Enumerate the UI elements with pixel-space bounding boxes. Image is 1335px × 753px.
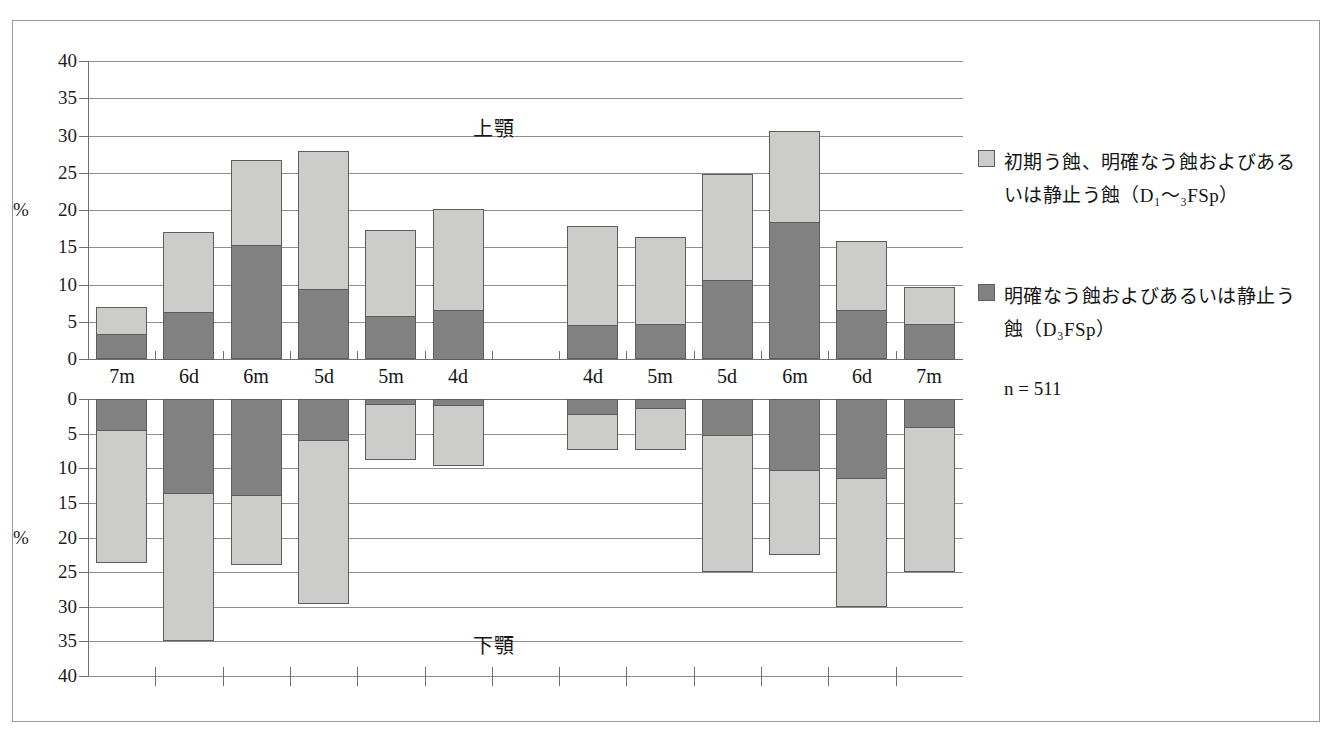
lower-y-tick-label: 20 [31,528,77,547]
lower-bar [567,399,618,450]
lower-y-axis [88,399,89,676]
lower-bar-segment-dark [769,399,820,471]
lower-y-tick [79,538,88,539]
lower-bar [96,399,147,562]
legend-label-light: 初期う蝕、明確なう蝕およびあるいは静止う蝕（D₁〜₃FSp） [1004,146,1296,212]
lower-bar-segment-dark [231,399,282,496]
lower-bar-segment-dark [702,399,753,436]
legend-item-light: 初期う蝕、明確なう蝕およびあるいは静止う蝕（D₁〜₃FSp） [978,146,1296,212]
lower-y-tick-label: 15 [31,493,77,512]
lower-bar-segment-dark [904,399,955,428]
lower-bar-segment-light [836,478,887,607]
lower-bar-segment-light [702,435,753,572]
lower-bar-segment-light [365,404,416,460]
sample-size-note: n = 511 [1004,379,1062,398]
lower-gridline [88,607,963,608]
legend: 初期う蝕、明確なう蝕およびあるいは静止う蝕（D₁〜₃FSp） 明確なう蝕およびあ… [978,146,1308,416]
lower-bar [635,399,686,450]
lower-x-tick [425,667,426,686]
category-label: 6d [829,366,895,386]
lower-bar-segment-dark [836,399,887,479]
lower-x-tick [290,667,291,686]
category-axis-labels: 7m6d6m5d5m4d4d5m5d6m6d7m [13,21,1319,22]
lower-bar-segment-light [567,414,618,450]
category-label: 7m [896,366,962,386]
lower-percent-label: % [13,528,29,547]
lower-x-axis-top [88,399,963,400]
lower-x-tick [694,667,695,686]
lower-y-tick [79,572,88,573]
lower-gridline [88,572,963,573]
lower-bar-segment-light [433,405,484,466]
lower-gridline [88,503,963,504]
legend-label-dark: 明確なう蝕およびあるいは静止う蝕（D₃FSp） [1004,280,1296,346]
lower-bar-segment-light [163,493,214,641]
lower-gridline [88,641,963,642]
lower-gridline [88,538,963,539]
lower-bar-segment-light [298,440,349,604]
lower-bar-segment-light [96,430,147,563]
lower-bar [365,399,416,460]
lower-bar-segment-light [769,470,820,555]
lower-bar [702,399,753,572]
lower-gridline [88,468,963,469]
lower-x-tick [828,667,829,686]
category-label: 5d [291,366,357,386]
lower-bar-segment-light [635,408,686,450]
lower-y-tick-label: 40 [31,666,77,685]
lower-y-tick-label: 5 [31,424,77,443]
legend-swatch-dark-icon [978,284,995,301]
category-label: 6m [223,366,289,386]
lower-y-tick-label: 35 [31,631,77,650]
lower-x-tick [223,667,224,686]
lower-bar-segment-dark [298,399,349,441]
lower-bar-segment-dark [163,399,214,494]
category-label: 6d [156,366,222,386]
category-label: 5d [694,366,760,386]
lower-y-tick [79,434,88,435]
category-label: 6m [762,366,828,386]
lower-bar-segment-dark [567,399,618,415]
lower-bar-segment-light [904,427,955,572]
lower-y-tick [79,607,88,608]
lower-bar [836,399,887,607]
figure-frame: 0510152025303540%上顎 0510152025303540%下顎 … [12,20,1320,722]
lower-bar [231,399,282,565]
lower-bar [163,399,214,641]
lower-x-tick [357,667,358,686]
lower-panel-caption: 下顎 [473,636,515,656]
lower-y-tick-label: 10 [31,458,77,477]
lower-y-tick-label: 30 [31,597,77,616]
lower-bar [298,399,349,604]
lower-bar-segment-light [231,495,282,565]
lower-bar [769,399,820,555]
lower-y-tick [79,641,88,642]
lower-y-tick [79,468,88,469]
lower-gridline [88,676,963,677]
category-label: 4d [425,366,491,386]
lower-y-tick [79,503,88,504]
lower-y-tick-label: 0 [31,389,77,408]
lower-x-tick [155,667,156,686]
lower-x-tick [761,667,762,686]
lower-gridline [88,434,963,435]
legend-item-dark: 明確なう蝕およびあるいは静止う蝕（D₃FSp） [978,280,1296,346]
category-label: 5m [358,366,424,386]
lower-y-tick [79,399,88,400]
lower-bar [433,399,484,465]
lower-x-tick [626,667,627,686]
category-label: 5m [627,366,693,386]
legend-swatch-light-icon [978,150,995,167]
lower-x-tick [896,667,897,686]
lower-y-tick-label: 25 [31,562,77,581]
category-label: 4d [560,366,626,386]
lower-bar-segment-dark [96,399,147,431]
lower-y-tick [79,676,88,677]
lower-bar [904,399,955,572]
lower-x-tick [492,667,493,686]
category-label: 7m [89,366,155,386]
lower-x-tick [559,667,560,686]
